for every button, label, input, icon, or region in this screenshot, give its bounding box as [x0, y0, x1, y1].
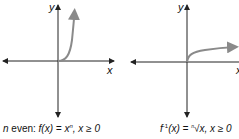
y-axis-label: y: [49, 1, 55, 13]
x-axis-label: x: [107, 64, 113, 76]
y-axis-label: y: [178, 1, 184, 13]
graphs-canvas: [0, 0, 239, 139]
caption-f: n even: f(x) = xn, x ≥ 0: [3, 123, 100, 134]
caption-cond: , x ≥ 0: [204, 123, 231, 134]
caption-cond: , x ≥ 0: [73, 123, 100, 134]
caption-even: even:: [9, 123, 39, 134]
caption-root: √x: [194, 123, 205, 134]
graph-f-inverse: [131, 5, 239, 117]
caption-func: f(x) = x: [39, 123, 70, 134]
curve-nth-root: [187, 47, 235, 62]
graph-f: [3, 5, 114, 117]
caption-f-inverse: f-1(x) = n√x, x ≥ 0: [160, 123, 232, 134]
x-axis-label: x: [236, 64, 239, 76]
curve-x-pow-n: [58, 12, 75, 61]
caption-rest: (x) =: [168, 123, 191, 134]
